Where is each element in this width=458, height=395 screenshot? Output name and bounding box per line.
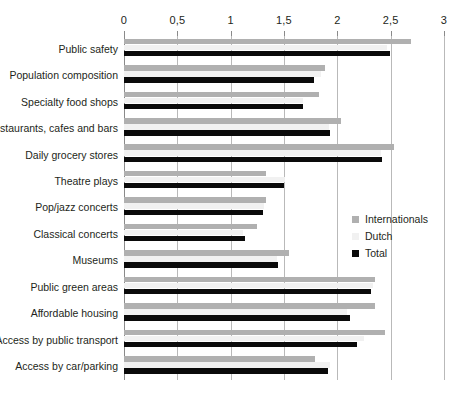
x-axis-tick-label: 2,5 (383, 14, 399, 26)
bar-dutch (124, 230, 243, 236)
bar-dutch (124, 177, 285, 183)
bar-total (124, 51, 390, 56)
chart-legend: InternationalsDutchTotal (352, 212, 456, 263)
category-label: Specialty food shops (0, 89, 118, 115)
bar-internationals (124, 356, 315, 362)
category-label: Daily grocery stores (0, 142, 118, 168)
category-label: Public green areas (0, 274, 118, 300)
bar-total (124, 315, 350, 320)
category-label: Classical concerts (0, 221, 118, 247)
bar-total (124, 183, 284, 188)
bar-group: Daily grocery stores (124, 142, 444, 168)
bar-group: Affordable housing (124, 301, 444, 327)
bar-dutch (124, 336, 364, 342)
bar-group: Access by car/parking (124, 354, 444, 380)
bar-total (124, 130, 330, 135)
bar-chart: 00,511,522,53 Public safetyPopulation co… (0, 0, 458, 395)
bar-internationals (124, 197, 266, 203)
bar-group: Population composition (124, 62, 444, 88)
x-axis-tick-label: 0,5 (169, 14, 185, 26)
bar-internationals (124, 250, 289, 256)
bar-internationals (124, 92, 319, 98)
gridline (444, 36, 445, 380)
category-label: Access by public transport (0, 327, 118, 353)
bar-internationals (124, 171, 266, 177)
bar-total (124, 289, 371, 294)
legend-swatch-icon (352, 233, 359, 240)
legend-item: Total (352, 246, 456, 260)
x-axis-tick-label: 1,5 (276, 14, 292, 26)
bar-group: Specialty food shops (124, 89, 444, 115)
x-axis-tick-label: 2 (334, 14, 340, 26)
category-label: Theatre plays (0, 168, 118, 194)
bar-internationals (124, 118, 341, 124)
bar-dutch (124, 309, 347, 315)
bar-total (124, 236, 245, 241)
bar-internationals (124, 330, 385, 336)
bar-dutch (124, 203, 264, 209)
bar-dutch (124, 98, 303, 104)
bar-internationals (124, 277, 375, 283)
bar-rows: Public safetyPopulation compositionSpeci… (124, 36, 444, 380)
bar-dutch (124, 150, 381, 156)
x-axis-tick-labels: 00,511,522,53 (0, 14, 458, 32)
bar-group: Theatre plays (124, 168, 444, 194)
x-axis-tick-label: 3 (441, 14, 447, 26)
bar-internationals (124, 65, 325, 71)
category-label: Public safety (0, 36, 118, 62)
bar-group: Restaurants, cafes and bars (124, 115, 444, 141)
bar-dutch (124, 71, 321, 77)
category-label: Access by car/parking (0, 354, 118, 380)
bar-group: Access by public transport (124, 327, 444, 353)
bar-dutch (124, 256, 277, 262)
bar-internationals (124, 144, 394, 150)
plot-area: Public safetyPopulation compositionSpeci… (124, 36, 444, 380)
bar-group: Public safety (124, 36, 444, 62)
legend-swatch-icon (352, 250, 359, 257)
category-label: Museums (0, 248, 118, 274)
bar-total (124, 210, 263, 215)
category-label: Restaurants, cafes and bars (0, 115, 118, 141)
category-label: Population composition (0, 62, 118, 88)
bar-dutch (124, 362, 330, 368)
legend-item: Internationals (352, 212, 456, 226)
x-axis-tick-label: 1 (227, 14, 233, 26)
bar-total (124, 368, 328, 373)
bar-dutch (124, 283, 373, 289)
x-axis-tick-mark (444, 31, 445, 36)
legend-label: Total (365, 247, 387, 259)
legend-label: Internationals (365, 213, 428, 225)
x-axis-tick-label: 0 (121, 14, 127, 26)
bar-total (124, 77, 314, 82)
bar-dutch (124, 45, 387, 51)
bar-internationals (124, 303, 375, 309)
category-label: Affordable housing (0, 301, 118, 327)
bar-group: Public green areas (124, 274, 444, 300)
legend-item: Dutch (352, 229, 456, 243)
category-label: Pop/jazz concerts (0, 195, 118, 221)
legend-label: Dutch (365, 230, 392, 242)
legend-swatch-icon (352, 216, 359, 223)
bar-total (124, 262, 278, 267)
bar-total (124, 104, 303, 109)
bar-internationals (124, 224, 257, 230)
bar-internationals (124, 39, 411, 45)
bar-total (124, 157, 382, 162)
bar-dutch (124, 124, 329, 130)
bar-total (124, 342, 357, 347)
